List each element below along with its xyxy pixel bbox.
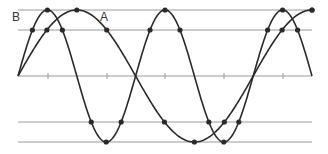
wave-a-dot [192, 139, 197, 144]
wave-plot [0, 0, 328, 154]
wave-a-dot [162, 119, 167, 124]
wave-b-dot [295, 27, 300, 32]
wave-b-dot [30, 27, 35, 32]
wave-b-label: B [12, 11, 20, 23]
wave-b-dot [60, 27, 65, 32]
wave-b-dot [162, 7, 167, 12]
wave-a-dot [74, 7, 79, 12]
wave-b-dot [221, 139, 226, 144]
wave-b-dot [119, 119, 124, 124]
wave-b-dot [206, 119, 211, 124]
wave-a-dot [44, 27, 49, 32]
wave-b-dot [265, 27, 270, 32]
wave-b-dot [280, 7, 285, 12]
sine-wave-diagram: B A [0, 0, 328, 154]
wave-b-dot [45, 7, 50, 12]
wave-a-dot [222, 119, 227, 124]
wave-b-dot [104, 139, 109, 144]
wave-a-label: A [100, 11, 108, 23]
wave-b-dot [147, 27, 152, 32]
wave-b-dot [236, 119, 241, 124]
wave-a-dot [104, 27, 109, 32]
wave-b-dot [177, 27, 182, 32]
wave-a-end-dot [309, 7, 314, 12]
wave-b-dot [89, 119, 94, 124]
wave-a-dot [279, 27, 284, 32]
